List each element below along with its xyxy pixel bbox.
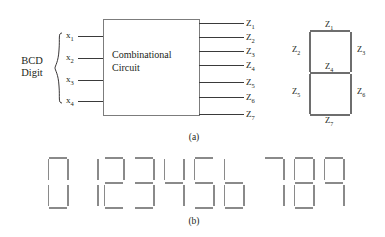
digit-2-segment-a — [105, 157, 123, 159]
digit-3-segment-b — [153, 159, 155, 180]
digit-1-segment-f — [78, 159, 80, 180]
digit-9-segment-g — [325, 182, 343, 184]
digit-9-segment-c — [343, 185, 345, 206]
seven-segment-digit-9 — [322, 157, 346, 209]
output-label-z2: Z2 — [246, 33, 255, 45]
digit-5-segment-b — [213, 159, 215, 180]
digit-7-segment-d — [265, 207, 283, 209]
digit-4-segment-f — [164, 159, 166, 180]
digit-7-segment-c — [283, 185, 285, 206]
seven-segment-digit-4 — [162, 157, 186, 209]
digit-4-segment-c — [183, 185, 185, 206]
digit-5-segment-g — [195, 182, 213, 184]
output-wire-z3 — [199, 51, 244, 52]
ref-label-z3: Z3 — [357, 45, 365, 58]
output-label-z1: Z1 — [246, 19, 255, 31]
digit-7-segment-b — [283, 159, 285, 180]
output-label-z6: Z6 — [246, 93, 255, 105]
digit-2-segment-e — [104, 185, 106, 206]
digit-8-segment-b — [313, 159, 315, 180]
output-wire-z1 — [199, 23, 244, 24]
digit-0-segment-b — [67, 159, 69, 180]
input-group-brace — [54, 32, 64, 104]
digit-4-segment-b — [183, 159, 185, 180]
bcd-digit-label-line1: BCD — [10, 55, 54, 67]
digit-6-segment-b — [243, 159, 245, 180]
output-wire-z2 — [199, 37, 244, 38]
digit-8-segment-e — [294, 185, 296, 206]
digit-7-segment-e — [264, 185, 266, 206]
digit-0-segment-c — [67, 185, 69, 206]
output-wire-z6 — [199, 97, 244, 98]
bcd-digit-label-line2: Digit — [10, 67, 54, 79]
output-wire-z4 — [199, 65, 244, 66]
seven-segment-digit-3 — [132, 157, 156, 209]
seven-segment-digit-5 — [192, 157, 216, 209]
combinational-circuit-label-line1: Combinational — [112, 48, 194, 61]
ref-label-z6: Z6 — [357, 87, 365, 100]
digit-1-segment-a — [79, 157, 97, 159]
digit-3-segment-g — [135, 182, 153, 184]
ref-segment-top-right — [350, 32, 352, 72]
digit-3-segment-a — [135, 157, 153, 159]
digit-7-segment-a — [265, 157, 283, 159]
digit-6-segment-c — [243, 185, 245, 206]
ref-label-z7: Z7 — [325, 116, 333, 129]
input-wire-x2 — [78, 58, 104, 59]
digit-4-segment-g — [165, 182, 183, 184]
input-wire-x3 — [78, 80, 104, 81]
digit-1-segment-e — [78, 185, 80, 206]
output-wire-z5 — [199, 82, 244, 83]
bcd-digit-label: BCD Digit — [10, 55, 54, 79]
digit-2-segment-b — [123, 159, 125, 180]
digit-8-segment-g — [295, 182, 313, 184]
digit-8-segment-c — [313, 185, 315, 206]
digit-8-segment-d — [295, 207, 313, 209]
digit-6-segment-g — [225, 182, 243, 184]
digit-5-segment-e — [194, 185, 196, 206]
ref-label-z5: Z5 — [292, 87, 300, 100]
caption-b: (b) — [174, 216, 214, 227]
seven-segment-digit-0 — [46, 157, 70, 209]
seven-segment-digit-6 — [222, 157, 246, 209]
output-label-z7: Z7 — [246, 110, 255, 122]
digit-9-segment-f — [324, 159, 326, 180]
ref-label-z4: Z4 — [325, 62, 333, 75]
combinational-circuit-label-line2: Circuit — [112, 61, 194, 74]
digit-1-segment-b — [97, 159, 99, 180]
digit-6-segment-e — [224, 185, 226, 206]
digit-7-segment-f — [264, 159, 266, 180]
digit-7-segment-g — [265, 182, 283, 184]
seven-segment-digit-2 — [102, 157, 126, 209]
ref-segment-bottom-right — [350, 74, 352, 114]
caption-a: (a) — [174, 132, 214, 143]
seven-segment-digit-8 — [292, 157, 316, 209]
digit-3-segment-d — [135, 207, 153, 209]
digit-9-segment-a — [325, 157, 343, 159]
input-wire-x1 — [78, 36, 104, 37]
output-label-z3: Z3 — [246, 47, 255, 59]
ref-label-z2: Z2 — [292, 45, 300, 58]
output-wire-z7 — [199, 114, 244, 115]
digit-9-segment-b — [343, 159, 345, 180]
digit-4-segment-e — [164, 185, 166, 206]
input-label-x3: x3 — [66, 75, 74, 87]
ref-segment-bottom-left — [309, 74, 311, 114]
digit-2-segment-f — [104, 159, 106, 180]
output-label-z5: Z5 — [246, 78, 255, 90]
input-wire-x4 — [78, 101, 104, 102]
ref-segment-top-left — [309, 32, 311, 72]
digit-0-segment-e — [48, 185, 50, 206]
digit-5-segment-c — [213, 185, 215, 206]
seven-segment-digit-7 — [262, 157, 286, 209]
digit-6-segment-d — [225, 207, 243, 209]
digit-1-segment-d — [79, 207, 97, 209]
digit-0-segment-g — [49, 182, 67, 184]
input-label-x2: x2 — [66, 53, 74, 65]
digit-2-segment-d — [105, 207, 123, 209]
digit-2-segment-g — [105, 182, 123, 184]
digit-4-segment-d — [165, 207, 183, 209]
digit-4-segment-a — [165, 157, 183, 159]
output-label-z4: Z4 — [246, 61, 255, 73]
digit-1-segment-c — [97, 185, 99, 206]
